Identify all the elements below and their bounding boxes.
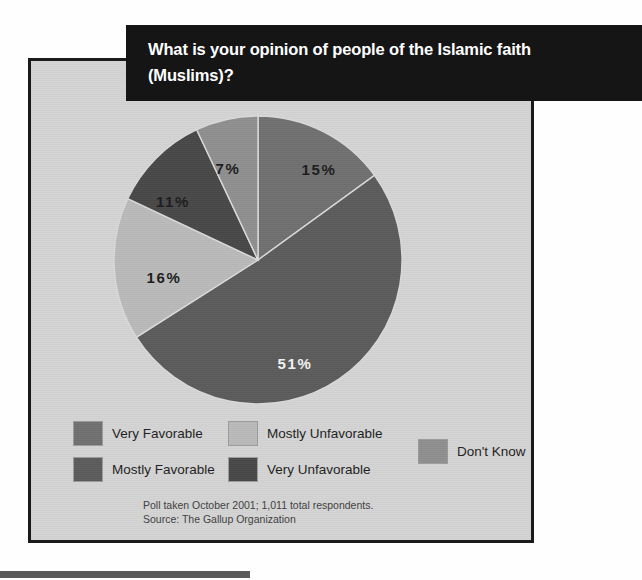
legend-swatch-very-unfavorable xyxy=(228,457,258,482)
legend-item-dont-know[interactable]: Don't Know xyxy=(418,439,526,464)
legend-item-mostly-unfavorable[interactable]: Mostly Unfavorable xyxy=(228,421,383,446)
legend-item-mostly-favorable[interactable]: Mostly Favorable xyxy=(73,457,215,482)
legend-label-very-unfavorable: Very Unfavorable xyxy=(267,462,371,477)
legend-swatch-dont-know xyxy=(418,439,448,464)
pie-value-label-16pct: 16% xyxy=(147,269,182,286)
pie-value-label-51pct: 51% xyxy=(278,355,313,372)
chart-legend: Very Favorable Mostly Favorable Mostly U… xyxy=(73,421,503,489)
legend-swatch-mostly-unfavorable xyxy=(228,421,258,446)
legend-item-very-favorable[interactable]: Very Favorable xyxy=(73,421,203,446)
chart-footnote: Poll taken October 2001; 1,011 total res… xyxy=(143,499,473,526)
legend-swatch-very-favorable xyxy=(73,421,103,446)
footnote-line-source: Source: The Gallup Organization xyxy=(143,513,473,527)
footnote-line-poll: Poll taken October 2001; 1,011 total res… xyxy=(143,499,473,513)
legend-label-very-favorable: Very Favorable xyxy=(112,426,203,441)
pie-slice-group xyxy=(114,116,402,404)
legend-label-mostly-favorable: Mostly Favorable xyxy=(112,462,215,477)
chart-title-line-2: (Muslims)? xyxy=(148,62,624,88)
pie-value-label-11pct: 11% xyxy=(156,193,190,210)
chart-title-banner: What is your opinion of people of the Is… xyxy=(126,25,642,101)
pie-chart: 15%51%16%11%7% xyxy=(113,113,403,405)
legend-item-very-unfavorable[interactable]: Very Unfavorable xyxy=(228,457,371,482)
chart-title-line-1: What is your opinion of people of the Is… xyxy=(148,36,624,62)
chart-panel: 15%51%16%11%7% Very Favorable Mostly Fav… xyxy=(28,58,534,543)
pie-chart-svg: 15%51%16%11%7% xyxy=(113,113,403,405)
legend-label-mostly-unfavorable: Mostly Unfavorable xyxy=(267,426,383,441)
legend-swatch-mostly-favorable xyxy=(73,457,103,482)
bottom-decorative-bar xyxy=(0,571,250,578)
pie-value-label-15pct: 15% xyxy=(302,161,337,178)
pie-value-label-7pct: 7% xyxy=(216,160,241,177)
legend-label-dont-know: Don't Know xyxy=(457,444,526,459)
